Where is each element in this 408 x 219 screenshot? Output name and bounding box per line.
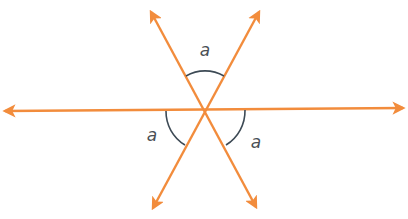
- angle-label-bottom-left: a: [147, 125, 157, 145]
- angle-label-bottom-right: a: [251, 132, 261, 152]
- intersecting-lines-diagram: a a a: [0, 0, 408, 219]
- angle-arc-top: [186, 71, 224, 76]
- angle-arc-bottom-right: [226, 110, 245, 145]
- angle-label-top: a: [200, 40, 210, 60]
- angle-arc-bottom-left: [166, 111, 185, 145]
